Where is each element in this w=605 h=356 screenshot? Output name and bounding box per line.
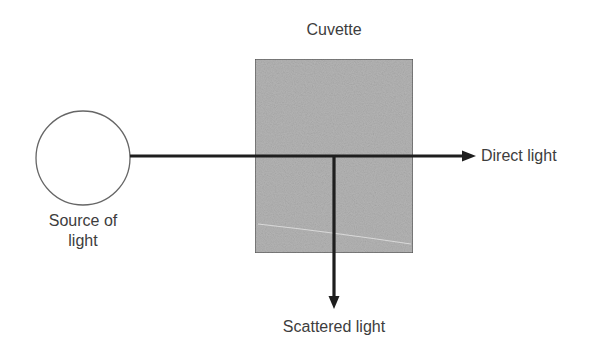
light-source-circle (36, 111, 130, 205)
diagram-canvas (0, 0, 605, 356)
source-of-light-label: Source of light (33, 211, 133, 251)
direct-light-arrowhead (462, 151, 476, 162)
scattered-light-arrowhead (329, 296, 340, 309)
scattered-light-label: Scattered light (283, 317, 385, 337)
cuvette-label: Cuvette (306, 20, 361, 40)
direct-light-label: Direct light (481, 146, 557, 166)
